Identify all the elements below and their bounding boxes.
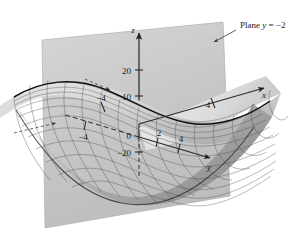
figure-svg: z x y 20 10 −20 0 2 4 −4 4 −4 Plane y = …: [0, 0, 300, 241]
z-tick-label-minus-20: −20: [117, 148, 132, 158]
x-axis-label: x: [261, 90, 266, 100]
y-tick-label-4: 4: [179, 134, 184, 144]
z-axis-label: z: [130, 25, 135, 35]
origin-label: 0: [127, 131, 132, 141]
figure-canvas: z x y 20 10 −20 0 2 4 −4 4 −4 Plane y = …: [0, 0, 300, 241]
z-tick-label-10: 10: [122, 92, 132, 102]
y-axis-label: y: [206, 162, 211, 172]
x-tick-label-4: 4: [206, 100, 211, 110]
surface-left-wing: [0, 97, 16, 118]
x-tick-label-minus-4: −4: [96, 93, 106, 103]
z-tick-label-20: 20: [122, 66, 132, 76]
plane-callout-label: Plane y = −2: [240, 20, 285, 30]
y-tick-label-minus-4: −4: [78, 132, 88, 142]
y-tick-label-2: 2: [157, 128, 162, 138]
